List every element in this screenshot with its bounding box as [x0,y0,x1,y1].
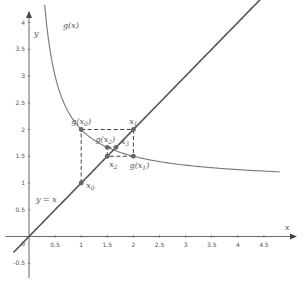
x-axis-label: x [285,223,290,232]
x-tick-label: 2.5 [155,241,165,248]
point-label: g(x2) [95,135,115,145]
point-label-main: g(x [71,117,84,126]
y-axis-label: y [33,29,39,38]
x-tick-label: 3 [184,241,188,248]
point-label-close: ) [87,117,91,126]
x-tick-label: 4 [236,241,240,248]
point-x1 [131,127,136,132]
g-curve-label: g(x) [63,21,79,30]
point-label-subscript: 1 [134,120,138,127]
y-tick-label: 3 [21,72,25,79]
y-tick-label: 2 [21,126,25,133]
x-tick-label: 1 [79,241,83,248]
point-label-subscript: 2 [113,163,118,170]
y-tick-label: 3.5 [15,45,25,52]
y-tick-label: 2.5 [15,99,25,106]
y-tick-label: 0.5 [15,206,25,213]
point-label: g(x1) [130,161,150,171]
point-gx1 [131,154,136,159]
point-label-close: ) [145,161,149,170]
y-tick-label: 1 [21,179,25,186]
point-label-subscript: 0 [91,184,95,191]
point-label-subscript: 3 [125,140,129,147]
y-tick-label: 1.5 [15,152,25,159]
point-x2 [105,154,110,159]
x-tick-label: 1.5 [103,241,113,248]
x-tick-label: 2 [131,241,135,248]
x-tick-label: 3.5 [207,241,217,248]
point-label-main: g(x [130,161,143,170]
point-gx0 [79,127,84,132]
point-label: x2 [109,160,118,170]
x-tick-label: 4.5 [259,241,269,248]
y-tick-label: 4 [21,19,25,26]
point-x3 [114,145,119,150]
y-tick-label: -0.5 [13,259,25,266]
cobweb-chart: 0.511.522.533.544.5-0.50.511.522.533.540… [0,0,305,282]
point-label: x1 [129,117,137,127]
point-label-close: ) [111,135,115,144]
x-tick-label: 0.5 [50,241,60,248]
point-label: g(x0) [71,117,91,127]
identity-line [13,0,290,253]
point-gx2 [105,145,110,150]
point-label: x3 [121,137,130,147]
g-curve [45,5,280,172]
point-x0 [79,181,84,186]
identity-line-label: y = x [35,195,57,204]
point-label-main: g(x [95,135,108,144]
point-label: x0 [86,181,95,191]
